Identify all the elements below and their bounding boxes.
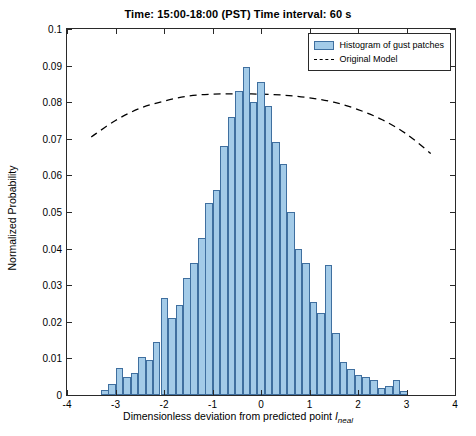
y-tick-label: 0.01 [24, 353, 62, 364]
y-tick-mark [67, 139, 72, 140]
y-tick-label: 0.04 [24, 243, 62, 254]
histogram-bar [310, 302, 318, 395]
plot-area: Histogram of gust patches Original Model [66, 28, 456, 396]
x-tick-label: 1 [307, 399, 313, 410]
x-tick-label: 2 [355, 399, 361, 410]
histogram-bar [370, 380, 378, 395]
y-tick-label: 0.06 [24, 170, 62, 181]
x-tick-mark [213, 29, 214, 34]
y-tick-mark [67, 395, 72, 396]
y-tick-mark [450, 395, 455, 396]
x-tick-label: -1 [208, 399, 217, 410]
y-tick-mark [450, 212, 455, 213]
histogram-bar [116, 368, 124, 395]
figure-canvas: Time: 15:00-18:00 (PST) Time interval: 6… [0, 0, 476, 436]
y-axis-title: Normalized Probability [6, 118, 18, 318]
y-tick-label: 0.09 [24, 60, 62, 71]
y-tick-label: 0 [24, 390, 62, 401]
histogram-bar [265, 106, 273, 395]
x-axis-title-subscript: neal [338, 416, 353, 425]
x-tick-mark [407, 390, 408, 395]
x-tick-mark [455, 29, 456, 34]
histogram-bar [190, 263, 198, 395]
histogram-bar [378, 388, 386, 395]
histogram-bar [385, 386, 393, 395]
y-tick-mark [450, 175, 455, 176]
y-tick-mark [450, 322, 455, 323]
x-tick-mark [358, 390, 359, 395]
x-tick-mark [310, 390, 311, 395]
histogram-bar [168, 318, 176, 395]
y-tick-mark [67, 29, 72, 30]
histogram-bar [295, 249, 303, 395]
x-tick-label: -2 [160, 399, 169, 410]
x-tick-mark [116, 390, 117, 395]
y-tick-mark [450, 29, 455, 30]
x-tick-label: 0 [258, 399, 264, 410]
histogram-bar [287, 212, 295, 395]
y-tick-mark [67, 358, 72, 359]
y-tick-mark [67, 102, 72, 103]
y-tick-mark [67, 212, 72, 213]
y-tick-mark [450, 285, 455, 286]
legend-box: Histogram of gust patches Original Model [308, 33, 451, 71]
histogram-bar [302, 263, 310, 395]
y-tick-label: 0.05 [24, 207, 62, 218]
legend-item-label: Original Model [339, 53, 397, 66]
x-tick-label: -3 [111, 399, 120, 410]
histogram-bar [362, 377, 370, 395]
histogram-bar [340, 362, 348, 395]
y-tick-label: 0.08 [24, 97, 62, 108]
legend-item-histogram: Histogram of gust patches [314, 38, 444, 52]
y-tick-label: 0.03 [24, 280, 62, 291]
x-tick-mark [164, 390, 165, 395]
x-tick-mark [455, 390, 456, 395]
histogram-bar [325, 265, 333, 395]
histogram-bar [213, 190, 221, 395]
x-tick-mark [261, 390, 262, 395]
histogram-bar [228, 117, 236, 395]
legend-item-label: Histogram of gust patches [339, 39, 444, 52]
x-tick-mark [261, 29, 262, 34]
histogram-bar [257, 82, 265, 395]
y-tick-label: 0.02 [24, 316, 62, 327]
legend-dashed-line-icon [314, 55, 334, 64]
x-tick-mark [164, 29, 165, 34]
histogram-bar [317, 313, 325, 395]
x-tick-label: 4 [452, 399, 458, 410]
histogram-bar [131, 373, 139, 395]
histogram-bar [153, 342, 161, 395]
y-tick-mark [67, 322, 72, 323]
legend-histogram-swatch-icon [314, 41, 334, 50]
y-tick-mark [67, 66, 72, 67]
legend-item-model: Original Model [314, 52, 444, 66]
histogram-bar [332, 333, 340, 395]
chart-title: Time: 15:00-18:00 (PST) Time interval: 6… [0, 8, 476, 20]
x-tick-label: 3 [404, 399, 410, 410]
histogram-bar [280, 164, 288, 395]
y-tick-label: 0.07 [24, 133, 62, 144]
y-tick-mark [67, 175, 72, 176]
x-axis-title: Dimensionless deviation from predicted p… [0, 410, 476, 425]
y-tick-mark [450, 249, 455, 250]
histogram-bar [393, 380, 401, 395]
histogram-bar [272, 142, 280, 395]
y-tick-mark [450, 139, 455, 140]
histogram-bar [347, 369, 355, 395]
y-tick-mark [67, 249, 72, 250]
x-axis-title-main: Dimensionless deviation from predicted p… [123, 410, 335, 422]
x-tick-mark [116, 29, 117, 34]
y-tick-mark [450, 358, 455, 359]
x-tick-mark [213, 390, 214, 395]
y-tick-mark [67, 285, 72, 286]
y-tick-label: 0.1 [24, 24, 62, 35]
x-tick-label: -4 [63, 399, 72, 410]
y-tick-mark [450, 102, 455, 103]
